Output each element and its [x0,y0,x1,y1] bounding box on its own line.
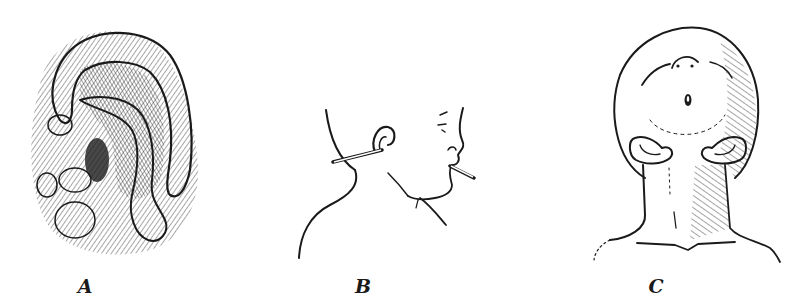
panel-label-b: B [348,275,378,297]
panel-c [570,0,796,270]
panel-label-c: C [641,275,671,297]
panel-a [0,0,260,270]
panel-b [280,0,500,270]
head-front-illustration [570,0,796,270]
panel-label-a: A [70,275,100,297]
ear-illustration [0,0,260,270]
infant-profile-illustration [280,0,500,270]
